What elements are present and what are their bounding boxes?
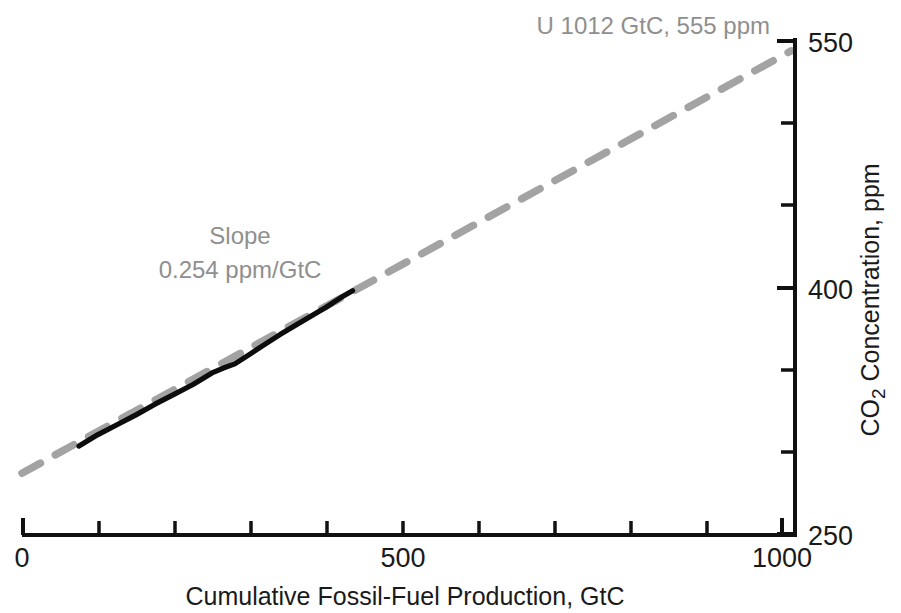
y-axis-title-pre: CO	[856, 399, 884, 437]
slope-annotation-line2: 0.254 ppm/GtC	[159, 256, 322, 283]
x-axis-title: Cumulative Fossil-Fuel Production, GtC	[185, 582, 624, 610]
x-tick-label-0: 0	[14, 543, 29, 573]
y-tick-label-550: 550	[808, 28, 853, 58]
y-axis-title: CO2 Concentration, ppm	[856, 163, 889, 436]
series-observed-group	[79, 291, 353, 446]
x-tick-label-500: 500	[380, 543, 425, 573]
y-axis-title-group: CO2 Concentration, ppm	[856, 163, 889, 436]
ultimate-resource-value: 1012 GtC, 555 ppm	[554, 12, 770, 39]
series-projection-line	[22, 51, 791, 473]
ultimate-resource-symbol: U	[537, 12, 554, 39]
y-axis: 550 400 250 CO2 Concentration, ppm	[777, 28, 889, 551]
y-tick-label-250: 250	[808, 521, 853, 551]
x-axis: 0 500 1000 Cumulative Fossil-Fuel Produc…	[14, 518, 812, 610]
y-tick-label-400: 400	[808, 275, 853, 305]
series-projection-group	[22, 51, 791, 473]
y-axis-title-post: Concentration, ppm	[856, 163, 884, 388]
co2-cumulative-production-chart: 0 500 1000 Cumulative Fossil-Fuel Produc…	[0, 0, 901, 613]
x-tick-label-1000: 1000	[752, 543, 812, 573]
slope-annotation: Slope 0.254 ppm/GtC	[159, 222, 322, 283]
ultimate-resource-annotation: U 1012 GtC, 555 ppm	[537, 12, 770, 39]
y-axis-title-subscript: 2	[868, 389, 889, 400]
series-observed-line	[79, 291, 353, 446]
ultimate-resource-annotation-text: U 1012 GtC, 555 ppm	[537, 12, 770, 39]
slope-annotation-line1: Slope	[209, 222, 270, 249]
chart-figure: 0 500 1000 Cumulative Fossil-Fuel Produc…	[0, 0, 901, 613]
